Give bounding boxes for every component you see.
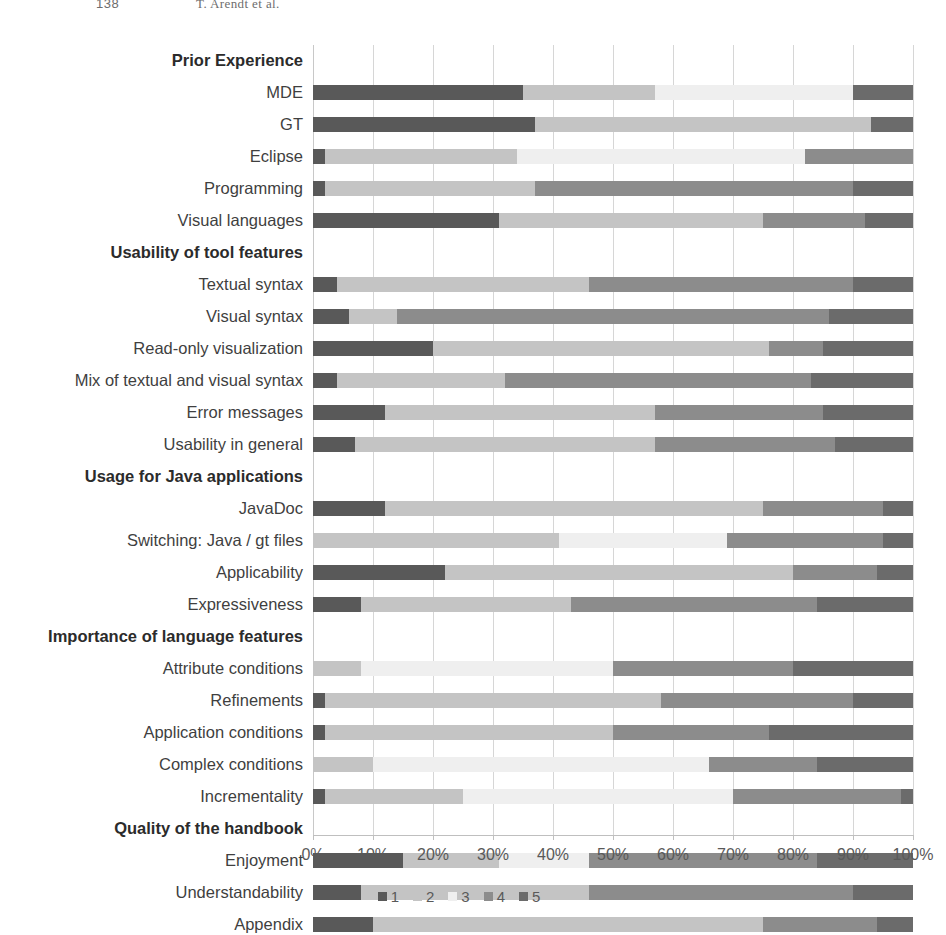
bar-segment-5 xyxy=(871,117,913,132)
x-tick-label: 70% xyxy=(717,846,749,864)
bar-segment-2 xyxy=(535,117,871,132)
bar-segment-4 xyxy=(733,789,901,804)
x-tick-mark xyxy=(913,835,914,840)
legend-item-4: 4 xyxy=(484,888,505,905)
bar-segment-4 xyxy=(727,533,883,548)
bar-segment-5 xyxy=(883,533,913,548)
category-label: Usability in general xyxy=(164,435,303,454)
stacked-bar xyxy=(313,341,913,356)
stacked-bar xyxy=(313,693,913,708)
bar-segment-1 xyxy=(313,501,385,516)
legend-swatch-icon xyxy=(413,892,422,901)
stacked-bar xyxy=(313,181,913,196)
x-tick-label: 0% xyxy=(301,846,324,864)
bar-segment-1 xyxy=(313,917,373,932)
bar-segment-4 xyxy=(805,149,913,164)
chart-data-row: Expressiveness xyxy=(313,589,913,621)
x-tick-label: 40% xyxy=(537,846,569,864)
stacked-bar xyxy=(313,757,913,772)
stacked-bar xyxy=(313,501,913,516)
bar-segment-2 xyxy=(325,789,463,804)
bar-segment-1 xyxy=(313,405,385,420)
stacked-bar xyxy=(313,149,913,164)
group-header-label: Usability of tool features xyxy=(110,243,303,262)
chart-group-header-row: Importance of language features xyxy=(313,621,913,653)
group-header-label: Usage for Java applications xyxy=(85,467,303,486)
bar-segment-5 xyxy=(811,373,913,388)
bar-segment-5 xyxy=(853,85,913,100)
stacked-bar xyxy=(313,661,913,676)
legend-label: 5 xyxy=(532,888,540,905)
stacked-bar-chart: Prior ExperienceMDEGTEclipseProgrammingV… xyxy=(0,0,946,935)
bar-segment-5 xyxy=(883,501,913,516)
category-label: GT xyxy=(280,115,303,134)
bar-segment-4 xyxy=(613,661,793,676)
category-label: MDE xyxy=(266,83,303,102)
bar-segment-2 xyxy=(337,277,589,292)
group-header-label: Importance of language features xyxy=(48,627,303,646)
bar-segment-2 xyxy=(325,693,661,708)
bar-segment-2 xyxy=(499,213,763,228)
stacked-bar xyxy=(313,373,913,388)
bar-segment-5 xyxy=(877,565,913,580)
bar-segment-4 xyxy=(589,277,853,292)
bar-segment-5 xyxy=(793,661,913,676)
bar-segment-2 xyxy=(445,565,793,580)
bar-segment-1 xyxy=(313,789,325,804)
category-label: Application conditions xyxy=(143,723,303,742)
category-label: Incrementality xyxy=(200,787,303,806)
chart-data-row: Error messages xyxy=(313,397,913,429)
bar-segment-5 xyxy=(865,213,913,228)
bar-segment-5 xyxy=(817,597,913,612)
category-label: Visual languages xyxy=(178,211,303,230)
x-tick-mark xyxy=(493,835,494,840)
chart-data-row: Applicability xyxy=(313,557,913,589)
chart-data-row: Eclipse xyxy=(313,141,913,173)
stacked-bar xyxy=(313,85,913,100)
bar-segment-4 xyxy=(505,373,811,388)
bar-segment-2 xyxy=(385,405,655,420)
category-label: Appendix xyxy=(234,915,303,934)
category-label: Eclipse xyxy=(250,147,303,166)
legend-swatch-icon xyxy=(448,892,457,901)
bar-segment-5 xyxy=(769,725,913,740)
x-tick-mark xyxy=(433,835,434,840)
category-label: JavaDoc xyxy=(239,499,303,518)
stacked-bar xyxy=(313,597,913,612)
bar-segment-5 xyxy=(817,757,913,772)
stacked-bar xyxy=(313,437,913,452)
category-label: Mix of textual and visual syntax xyxy=(75,371,303,390)
group-header-label: Quality of the handbook xyxy=(114,819,303,838)
bar-segment-1 xyxy=(313,437,355,452)
gridline-100 xyxy=(913,45,914,835)
bar-segment-2 xyxy=(433,341,769,356)
x-tick-label: 90% xyxy=(837,846,869,864)
x-tick-mark xyxy=(673,835,674,840)
legend-label: 4 xyxy=(497,888,505,905)
bar-segment-2 xyxy=(523,85,655,100)
bar-segment-2 xyxy=(313,757,373,772)
bar-segment-1 xyxy=(313,309,349,324)
chart-data-row: Usability in general xyxy=(313,429,913,461)
x-tick-label: 60% xyxy=(657,846,689,864)
bar-segment-3 xyxy=(559,533,727,548)
legend-item-1: 1 xyxy=(378,888,399,905)
category-label: Read-only visualization xyxy=(133,339,303,358)
bar-segment-2 xyxy=(313,661,361,676)
bar-segment-3 xyxy=(463,789,733,804)
legend-label: 2 xyxy=(426,888,434,905)
bar-segment-1 xyxy=(313,277,337,292)
stacked-bar xyxy=(313,277,913,292)
stacked-bar xyxy=(313,789,913,804)
stacked-bar xyxy=(313,117,913,132)
bar-segment-1 xyxy=(313,117,535,132)
x-tick-mark xyxy=(853,835,854,840)
chart-group-header-row: Quality of the handbook xyxy=(313,813,913,845)
chart-data-row: Complex conditions xyxy=(313,749,913,781)
legend-swatch-icon xyxy=(484,892,493,901)
bar-segment-3 xyxy=(373,757,709,772)
bar-segment-4 xyxy=(535,181,853,196)
group-header-label: Prior Experience xyxy=(172,51,303,70)
bar-segment-3 xyxy=(517,149,805,164)
chart-data-row: JavaDoc xyxy=(313,493,913,525)
